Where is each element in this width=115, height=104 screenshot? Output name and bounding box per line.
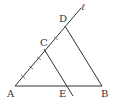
label-C: C — [40, 37, 48, 48]
label-line-l: ℓ — [81, 2, 85, 12]
label-E: E — [59, 88, 66, 99]
label-B: B — [101, 88, 108, 99]
line-l — [15, 8, 81, 86]
geometry-diagram: A B C D E ℓ — [0, 0, 115, 104]
label-D: D — [59, 13, 67, 24]
diagram-canvas: A B C D E ℓ — [0, 0, 115, 104]
segment-DB — [65, 26, 102, 86]
label-A: A — [6, 88, 15, 99]
